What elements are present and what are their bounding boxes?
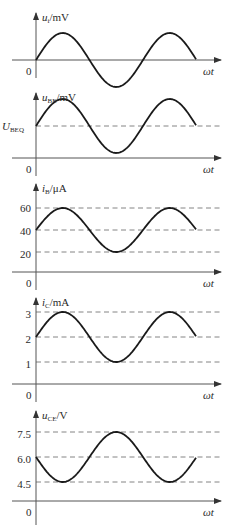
x-axis-label: ωt — [203, 163, 215, 175]
origin-label: 0 — [26, 506, 32, 518]
y-axis-label: iC/mA — [42, 296, 69, 310]
y-tick-label: 3 — [26, 308, 32, 320]
waveform-figure: ui/mV0ωtuBE/mVUBEQ0ωtiB/μA6040200ωtiC/mA… — [0, 0, 231, 530]
y-axis-label: uBE/mV — [42, 91, 76, 105]
x-axis-label: ωt — [203, 277, 215, 289]
origin-label: 0 — [26, 65, 32, 77]
panel-uCE: uCE/V7.56.04.50ωt — [12, 409, 221, 525]
y-tick-label: 2 — [26, 333, 32, 345]
y-axis-label: ui/mV — [42, 11, 69, 25]
origin-label: 0 — [26, 277, 32, 289]
y-axis-label: uCE/V — [42, 409, 68, 423]
panel-iC: iC/mA3210ωt — [12, 296, 221, 402]
x-axis-label: ωt — [203, 506, 215, 518]
y-axis-label: iB/μA — [42, 182, 67, 196]
x-axis-label: ωt — [203, 389, 215, 401]
origin-label: 0 — [26, 163, 32, 175]
panel-ui: ui/mV0ωt — [12, 11, 221, 87]
y-tick-label: 4.5 — [17, 478, 31, 490]
origin-label: 0 — [26, 389, 32, 401]
panel-iB: iB/μA6040200ωt — [12, 182, 221, 290]
x-axis-label: ωt — [203, 65, 215, 77]
y-tick-label: 60 — [20, 202, 32, 214]
panel-uBE: uBE/mVUBEQ0ωt — [2, 91, 221, 176]
y-tick-label: 40 — [20, 225, 32, 237]
y-tick-label: 7.5 — [17, 428, 31, 440]
y-tick-label: 20 — [20, 248, 32, 260]
baseline-label: UBEQ — [2, 120, 24, 134]
y-tick-label: 1 — [26, 358, 32, 370]
y-tick-label: 6.0 — [17, 453, 31, 465]
